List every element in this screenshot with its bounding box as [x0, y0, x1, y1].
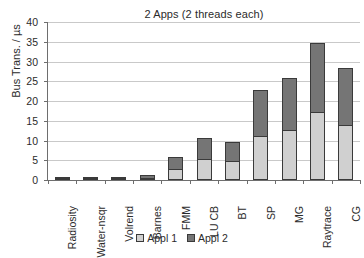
bar-segment-appl1: [55, 178, 70, 180]
chart-legend: Appl 1 Appl 2: [0, 232, 364, 244]
bar-segment-appl1: [282, 130, 297, 180]
bar-segment-appl1: [140, 178, 155, 180]
y-axis-tick-label: 0: [14, 174, 38, 186]
y-tick-mark: [44, 42, 48, 43]
x-axis-tick-label: CG: [350, 206, 362, 222]
bar-stack: [282, 78, 297, 180]
bar-segment-appl1: [310, 112, 325, 180]
bar-stack: [225, 142, 240, 180]
x-tick-mark: [161, 180, 162, 184]
bar-stack: [338, 68, 353, 180]
y-tick-mark: [44, 22, 48, 23]
legend-entry-appl2: Appl 2: [187, 232, 228, 244]
bar-stack: [140, 175, 155, 180]
bar-stack: [168, 157, 183, 180]
x-tick-mark: [218, 180, 219, 184]
bar-segment-appl1: [168, 169, 183, 180]
bar-segment-appl1: [225, 161, 240, 180]
x-tick-mark: [133, 180, 134, 184]
x-axis-tick-label: MG: [293, 206, 305, 223]
y-axis-tick-label: 15: [14, 115, 38, 127]
x-tick-mark: [48, 180, 49, 184]
x-axis-tick-label: BT: [236, 206, 248, 219]
bar-segment-appl1: [111, 178, 126, 180]
bar-segment-appl2: [310, 43, 325, 112]
bar-segment-appl2: [253, 90, 268, 136]
bar-stack: [197, 138, 212, 180]
bar-segment-appl1: [197, 159, 212, 180]
plot-area: 0510152025303540RadiosityWater-nsqrVolre…: [47, 22, 360, 181]
bar-segment-appl2: [282, 78, 297, 131]
legend-entry-appl1: Appl 1: [136, 232, 177, 244]
x-tick-mark: [76, 180, 77, 184]
x-axis-tick-label: FMM: [180, 206, 192, 230]
bar-stack: [83, 177, 98, 181]
legend-label-appl1: Appl 1: [147, 232, 177, 244]
y-axis-tick-label: 35: [14, 36, 38, 48]
x-tick-mark: [247, 180, 248, 184]
bar-segment-appl2: [168, 157, 183, 169]
y-tick-mark: [44, 101, 48, 102]
bar-segment-appl1: [83, 178, 98, 180]
x-tick-mark: [105, 180, 106, 184]
y-axis-tick-label: 5: [14, 154, 38, 166]
gridline: [48, 22, 360, 23]
legend-label-appl2: Appl 2: [198, 232, 228, 244]
bar-stack: [310, 43, 325, 180]
y-tick-mark: [44, 160, 48, 161]
y-tick-mark: [44, 62, 48, 63]
bar-segment-appl2: [338, 68, 353, 124]
legend-swatch-appl1: [136, 234, 144, 242]
y-tick-mark: [44, 141, 48, 142]
chart-title: 2 Apps (2 threads each): [48, 8, 360, 20]
x-tick-mark: [303, 180, 304, 184]
bar-segment-appl1: [253, 136, 268, 180]
x-tick-mark: [190, 180, 191, 184]
x-tick-mark: [275, 180, 276, 184]
y-axis-tick-label: 40: [14, 16, 38, 28]
y-axis-tick-label: 30: [14, 56, 38, 68]
bar-segment-appl1: [338, 125, 353, 180]
bar-stack: [55, 177, 70, 181]
bar-segment-appl2: [197, 138, 212, 159]
bar-segment-appl2: [225, 142, 240, 162]
y-axis-tick-label: 20: [14, 95, 38, 107]
x-axis-tick-label: SP: [265, 206, 277, 220]
y-tick-mark: [44, 81, 48, 82]
y-tick-mark: [44, 121, 48, 122]
y-axis-tick-label: 10: [14, 135, 38, 147]
y-axis-tick-label: 25: [14, 75, 38, 87]
legend-swatch-appl2: [187, 234, 195, 242]
bar-stack: [111, 177, 126, 181]
x-tick-mark: [360, 180, 361, 184]
bar-stack: [253, 90, 268, 180]
x-tick-mark: [332, 180, 333, 184]
